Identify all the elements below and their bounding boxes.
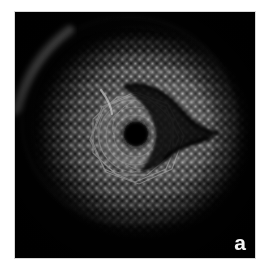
corner-vignette-layer <box>15 12 255 258</box>
panel-label: a <box>234 232 246 253</box>
micrograph-image: a <box>15 12 255 258</box>
figure-panel: a <box>0 0 267 272</box>
